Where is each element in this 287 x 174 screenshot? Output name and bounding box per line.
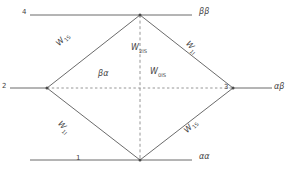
state-label-top-right: ββ [199, 8, 209, 16]
diagram-vector-layer [0, 0, 287, 174]
diagram-canvas: 4 2 3 1 ββ αβ αα βα W1S W1I W1I W1S W2IS… [0, 0, 287, 174]
edge-weight-horizontal-dashed: W0IS [150, 68, 166, 78]
node-label-top: 4 [22, 9, 27, 16]
state-label-left-center: βα [98, 70, 109, 78]
edge-weight-horizontal-sub: 0IS [158, 72, 166, 78]
node-label-left: 2 [2, 83, 7, 90]
edge-weight-horizontal-base: W [150, 67, 158, 76]
edge-top-left [47, 15, 140, 88]
vertex-top [139, 14, 142, 17]
node-label-right: 3 [224, 84, 229, 91]
state-label-right: αβ [274, 83, 285, 91]
edge-weight-vertical-sub: 2IS [139, 48, 147, 54]
edge-weight-vertical-dashed: W2IS [131, 44, 147, 54]
node-label-bottom: 1 [76, 155, 81, 162]
vertex-bottom [139, 159, 142, 162]
edge-weight-vertical-base: W [131, 43, 139, 52]
vertex-left [46, 87, 49, 90]
state-label-bottom-right: αα [199, 153, 210, 161]
vertex-right [232, 87, 235, 90]
